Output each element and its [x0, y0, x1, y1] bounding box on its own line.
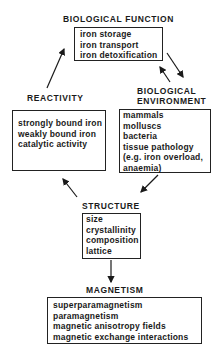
list-item: bacteria — [123, 131, 207, 142]
reactivity-box: strongly bound iron weakly bound iron ca… — [12, 110, 106, 171]
arrow-environment-to-structure — [141, 175, 158, 192]
list-item: composition — [86, 235, 137, 246]
list-item: size — [86, 214, 137, 225]
list-item: molluscs — [123, 121, 207, 132]
list-item: catalytic activity — [18, 139, 100, 150]
list-item: strongly bound iron — [18, 118, 100, 129]
biological-environment-box: mammals molluscs bacteria tissue patholo… — [119, 109, 211, 173]
list-item: (e.g. iron overload, — [123, 152, 207, 163]
arrow-environment-to-function — [160, 67, 170, 82]
arrow-structure-to-reactivity — [63, 179, 77, 197]
magnetism-title: MAGNETISM — [86, 285, 143, 295]
biological-function-title: BIOLOGICAL FUNCTION — [63, 14, 174, 24]
structure-box: size crystallinity composition lattice — [82, 213, 141, 259]
arrow-function-to-environment — [167, 53, 183, 77]
list-item: anaemia) — [123, 163, 207, 174]
list-item: crystallinity — [86, 225, 137, 236]
arrow-reactivity-to-function — [47, 49, 64, 88]
list-item: paramagnetism — [53, 311, 196, 322]
reactivity-title: REACTIVITY — [27, 93, 84, 103]
list-item: superparamagnetism — [53, 300, 196, 311]
list-item: magnetic anisotropy fields — [53, 321, 196, 332]
biological-function-box: iron storage iron transport iron detoxif… — [74, 27, 163, 61]
list-item: iron detoxification — [80, 50, 157, 61]
list-item: iron storage — [80, 29, 157, 40]
list-item: lattice — [86, 246, 137, 257]
list-item: weakly bound iron — [18, 129, 100, 140]
list-item: mammals — [123, 110, 207, 121]
magnetism-box: superparamagnetism paramagnetism magneti… — [47, 297, 202, 344]
list-item: iron transport — [80, 40, 157, 51]
structure-title: STRUCTURE — [82, 201, 140, 211]
list-item: magnetic exchange interactions — [53, 332, 196, 343]
list-item: tissue pathology — [123, 142, 207, 153]
biological-environment-title-line1: BIOLOGICAL — [137, 86, 196, 96]
biological-environment-title-line2: ENVIRONMENT — [137, 96, 206, 106]
